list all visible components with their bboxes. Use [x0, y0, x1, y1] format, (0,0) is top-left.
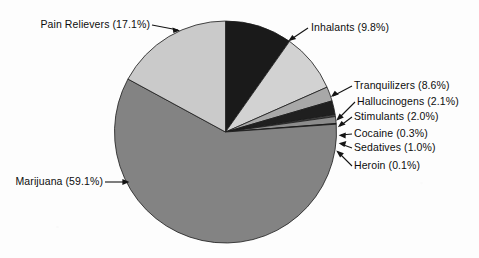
slice-label-tranquilizers: Tranquilizers (8.6%): [354, 80, 450, 91]
leader-arrowhead-tranquilizers: [331, 91, 339, 97]
slice-label-inhalants: Inhalants (9.8%): [311, 22, 389, 33]
slice-label-sedatives: Sedatives (1.0%): [354, 142, 436, 153]
slice-label-cocaine: Cocaine (0.3%): [354, 128, 428, 139]
leader-arrowhead-stimulants: [338, 121, 346, 127]
leader-arrowhead-cocaine: [339, 132, 346, 138]
leader-arrowhead-inhalants: [288, 35, 296, 41]
slice-label-pain-relievers: Pain Relievers (17.1%): [0, 19, 150, 30]
slice-label-stimulants: Stimulants (2.0%): [354, 111, 439, 122]
pie-chart-figure: Pain Relievers (17.1%) Marijuana (59.1%)…: [0, 0, 479, 258]
pie-slices-group: [114, 21, 336, 243]
slice-label-marijuana: Marijuana (59.1%): [0, 176, 103, 187]
slice-label-hallucinogens: Hallucinogens (2.1%): [357, 96, 459, 107]
slice-label-heroin: Heroin (0.1%): [354, 160, 420, 171]
